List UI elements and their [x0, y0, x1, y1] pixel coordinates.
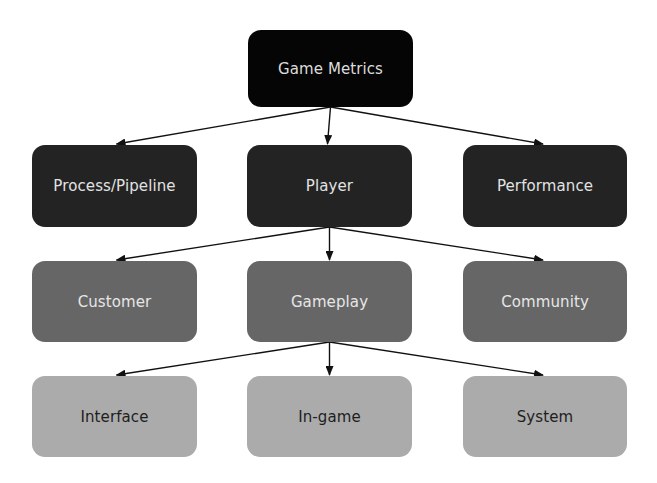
node-label: Community	[501, 293, 589, 311]
node-customer: Customer	[32, 261, 197, 342]
node-label: Game Metrics	[278, 60, 383, 78]
node-label: Process/Pipeline	[53, 177, 175, 195]
node-interface: Interface	[32, 376, 197, 457]
arrow-game-metrics-to-process-pipeline	[117, 107, 331, 144]
arrow-game-metrics-to-player	[328, 107, 331, 144]
node-label: Customer	[78, 293, 152, 311]
node-label: Interface	[80, 408, 148, 426]
node-label: Player	[306, 177, 353, 195]
game-metrics-hierarchy-diagram: Game Metrics Process/Pipeline Player Per…	[0, 0, 657, 483]
node-gameplay: Gameplay	[247, 261, 412, 342]
node-system: System	[463, 376, 627, 457]
arrow-game-metrics-to-performance	[331, 107, 544, 144]
node-process-pipeline: Process/Pipeline	[32, 145, 197, 227]
node-label: In-game	[298, 408, 361, 426]
node-community: Community	[463, 261, 627, 342]
arrow-gameplay-to-interface	[117, 342, 330, 375]
node-player: Player	[247, 145, 412, 227]
arrow-gameplay-to-system	[330, 342, 544, 375]
node-performance: Performance	[463, 145, 627, 227]
node-in-game: In-game	[247, 376, 412, 457]
arrow-player-to-customer	[117, 227, 330, 260]
arrow-player-to-community	[330, 227, 544, 260]
node-label: System	[517, 408, 574, 426]
node-game-metrics: Game Metrics	[248, 30, 413, 107]
node-label: Gameplay	[291, 293, 368, 311]
node-label: Performance	[497, 177, 593, 195]
